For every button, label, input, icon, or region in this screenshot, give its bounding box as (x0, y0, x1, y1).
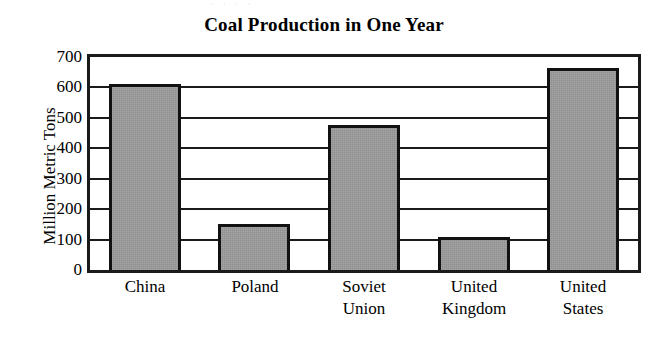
y-tick-label-100: 100 (38, 231, 82, 248)
plot-area (87, 54, 641, 273)
y-tick-label-0: 0 (38, 261, 82, 278)
bar-fill-texture (441, 240, 507, 270)
bar-china (109, 84, 181, 270)
bar-fill-texture (221, 227, 287, 270)
y-tick-label-600: 600 (38, 78, 82, 95)
y-tick-label-300: 300 (38, 170, 82, 187)
x-label-soviet-union: SovietUnion (309, 276, 419, 320)
x-label-line: United (419, 276, 529, 298)
bar-united-kingdom (438, 237, 510, 270)
bar-poland (218, 224, 290, 270)
chart-title: Coal Production in One Year (0, 14, 648, 36)
y-tick-label-500: 500 (38, 109, 82, 126)
x-label-line: China (90, 276, 200, 298)
x-label-united-states: UnitedStates (528, 276, 638, 320)
bar-fill-texture (112, 87, 178, 270)
x-label-china: China (90, 276, 200, 298)
bar-chart-figure: · · · · Coal Production in One Year Mill… (0, 0, 648, 341)
x-label-line: Soviet (309, 276, 419, 298)
x-label-line: Poland (200, 276, 310, 298)
x-label-line: Kingdom (419, 298, 529, 320)
x-label-line: United (528, 276, 638, 298)
bar-united-states (547, 68, 619, 270)
bar-fill-texture (550, 71, 616, 270)
x-label-united-kingdom: UnitedKingdom (419, 276, 529, 320)
x-label-poland: Poland (200, 276, 310, 298)
x-label-line: States (528, 298, 638, 320)
plot-inner (90, 57, 638, 270)
x-axis-category-labels: ChinaPolandSovietUnionUnitedKingdomUnite… (87, 276, 641, 338)
bar-fill-texture (331, 128, 397, 270)
bar-soviet-union (328, 125, 400, 270)
y-tick-label-400: 400 (38, 139, 82, 156)
y-tick-label-200: 200 (38, 200, 82, 217)
clipped-text-remnant: · · · · (210, 0, 470, 7)
y-tick-label-700: 700 (38, 48, 82, 65)
y-axis-tick-labels: 0100200300400500600700 (38, 54, 82, 273)
x-label-line: Union (309, 298, 419, 320)
